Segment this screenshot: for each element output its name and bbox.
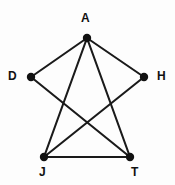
edge-a-h xyxy=(87,38,144,77)
node-h xyxy=(140,73,148,81)
node-j xyxy=(40,153,48,161)
edges-group xyxy=(31,38,144,157)
nodes-group xyxy=(27,34,148,161)
node-a xyxy=(83,34,91,42)
graph-canvas xyxy=(0,0,175,185)
node-label-t: T xyxy=(131,166,138,178)
node-label-h: H xyxy=(157,70,166,82)
graph-diagram: ADHJT xyxy=(0,0,175,185)
node-d xyxy=(27,73,35,81)
node-label-a: A xyxy=(81,12,90,24)
node-label-d: D xyxy=(8,70,17,82)
node-t xyxy=(126,153,134,161)
node-label-j: J xyxy=(39,166,46,178)
edge-a-d xyxy=(31,38,87,77)
